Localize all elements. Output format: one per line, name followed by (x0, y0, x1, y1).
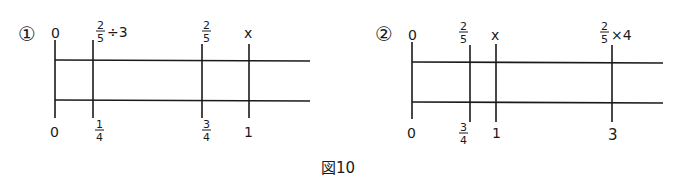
fraction-num: 2 (601, 20, 608, 33)
figure-caption: 図10 (0, 156, 676, 177)
unknown-x-label: x (244, 25, 252, 41)
one-label: 1 (244, 124, 253, 140)
diagram-2 (412, 42, 663, 122)
fraction-den: 4 (203, 131, 210, 144)
bottom-start-label: 0 (50, 124, 59, 140)
unknown-x-label: x (491, 27, 499, 43)
fraction-num: 2 (460, 20, 467, 33)
fraction-num: 2 (97, 19, 104, 32)
operator-label: ÷3 (107, 24, 128, 40)
fraction-den: 4 (460, 134, 467, 147)
top-line (412, 62, 663, 63)
fraction-num: 2 (203, 19, 210, 32)
diagram-label: ② (375, 22, 393, 46)
fraction-den: 4 (96, 131, 103, 144)
bottom-line (412, 102, 663, 103)
operator-label: ×4 (611, 27, 632, 43)
fraction-den: 5 (203, 32, 210, 45)
three-label: 3 (608, 126, 618, 144)
one-label: 1 (492, 125, 501, 141)
top-start-label: 0 (408, 27, 417, 43)
fraction-den: 5 (460, 33, 467, 46)
bottom-start-label: 0 (407, 125, 416, 141)
fraction-den: 5 (97, 32, 104, 45)
diagram-2-labels: ② 0 2 5 x 2 5 ×4 0 3 4 1 3 (375, 20, 632, 147)
diagram-1-labels: ① 0 2 5 ÷3 2 5 x 0 1 4 3 4 1 (18, 19, 253, 144)
fraction-num: 3 (460, 121, 467, 134)
diagram-1 (55, 40, 310, 118)
fraction-num: 1 (96, 118, 103, 131)
diagram-label: ① (18, 22, 36, 46)
top-start-label: 0 (51, 25, 60, 41)
fraction-num: 3 (203, 118, 210, 131)
number-line-diagrams: ① 0 2 5 ÷3 2 5 x 0 1 4 3 4 1 ② 0 2 5 (0, 0, 676, 182)
fraction-den: 5 (601, 33, 608, 46)
